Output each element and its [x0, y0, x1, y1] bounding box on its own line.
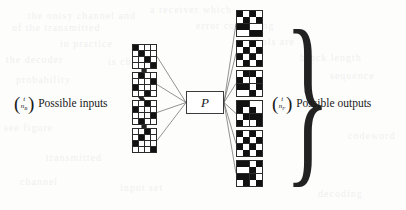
- grid-cell: [237, 131, 243, 137]
- grid-cell: [243, 77, 249, 83]
- input-grid: [132, 128, 157, 153]
- grid-cell: [256, 101, 262, 107]
- grid-cell: [250, 120, 256, 126]
- grid-cell: [133, 119, 138, 124]
- output-connector-line: [224, 54, 236, 103]
- grid-cell: [145, 101, 150, 106]
- grid-cell: [250, 161, 256, 167]
- output-binomial-coefficient: ( t nF ): [272, 96, 292, 111]
- grid-cell: [145, 107, 150, 112]
- grid-cell: [237, 90, 243, 96]
- grid-cell: [145, 135, 150, 140]
- grid-cell: [133, 147, 138, 152]
- output-grid: [236, 40, 263, 67]
- binomial-close-paren: ): [28, 96, 34, 111]
- grid-cell: [237, 60, 243, 66]
- grid-cell: [250, 174, 256, 180]
- grid-cell: [237, 30, 243, 36]
- grid-cell: [139, 113, 144, 118]
- grid-cell: [256, 144, 262, 150]
- grid-cell: [256, 90, 262, 96]
- grid-cell: [250, 90, 256, 96]
- grid-cell: [145, 119, 150, 124]
- input-label-text: Possible inputs: [38, 98, 107, 110]
- grid-cell: [243, 167, 249, 173]
- grid-cell: [151, 73, 156, 78]
- grid-cell: [243, 114, 249, 120]
- grid-cell: [243, 144, 249, 150]
- grid-cell: [133, 113, 138, 118]
- grid-cell: [256, 47, 262, 53]
- grid-cell: [250, 101, 256, 107]
- grid-cell: [250, 107, 256, 113]
- channel-box: P: [186, 91, 224, 114]
- grid-cell: [256, 41, 262, 47]
- output-binomial-bottom: nF: [279, 103, 286, 111]
- output-label: ( t nF ) Possible outputs: [272, 96, 371, 111]
- grid-cell: [139, 119, 144, 124]
- grid-cell: [250, 11, 256, 17]
- grid-cell: [256, 114, 262, 120]
- grid-cell: [237, 77, 243, 83]
- input-connector-line: [157, 103, 186, 113]
- grid-cell: [243, 137, 249, 143]
- grid-cell: [256, 84, 262, 90]
- grid-cell: [243, 161, 249, 167]
- grid-cell: [237, 71, 243, 77]
- grid-cell: [243, 17, 249, 23]
- grid-cell: [133, 85, 138, 90]
- grid-cell: [243, 101, 249, 107]
- grid-cell: [133, 91, 138, 96]
- grid-cell: [139, 73, 144, 78]
- output-label-text: Possible outputs: [296, 98, 371, 110]
- grid-cell: [256, 30, 262, 36]
- grid-cell: [237, 24, 243, 30]
- grid-cell: [237, 167, 243, 173]
- grid-cell: [133, 73, 138, 78]
- input-connector-line: [157, 57, 186, 103]
- grid-cell: [256, 137, 262, 143]
- input-grid: [132, 44, 157, 69]
- grid-cell: [139, 135, 144, 140]
- grid-cell: [145, 45, 150, 50]
- grid-cell: [237, 120, 243, 126]
- grid-cell: [237, 144, 243, 150]
- grid-cell: [237, 107, 243, 113]
- grid-cell: [139, 91, 144, 96]
- grid-cell: [139, 51, 144, 56]
- grid-cell: [256, 174, 262, 180]
- grid-cell: [256, 77, 262, 83]
- grid-cell: [243, 131, 249, 137]
- grid-cell: [145, 63, 150, 68]
- grid-cell: [256, 120, 262, 126]
- grid-cell: [243, 47, 249, 53]
- grid-cell: [250, 54, 256, 60]
- grid-cell: [250, 71, 256, 77]
- grid-cell: [133, 63, 138, 68]
- grid-cell: [151, 51, 156, 56]
- grid-cell: [250, 167, 256, 173]
- grid-cell: [250, 180, 256, 186]
- grid-cell: [243, 30, 249, 36]
- grid-cell: [151, 119, 156, 124]
- output-connector-line: [224, 24, 236, 103]
- grid-cell: [151, 91, 156, 96]
- grid-cell: [250, 84, 256, 90]
- grid-cell: [145, 51, 150, 56]
- input-connector-line: [157, 85, 186, 103]
- grid-cell: [250, 131, 256, 137]
- grid-cell: [243, 24, 249, 30]
- grid-cell: [250, 144, 256, 150]
- grid-cell: [237, 150, 243, 156]
- output-grid: [236, 10, 263, 37]
- grid-cell: [237, 11, 243, 17]
- grid-cell: [145, 57, 150, 62]
- grid-cell: [133, 129, 138, 134]
- grid-cell: [145, 91, 150, 96]
- grid-cell: [243, 180, 249, 186]
- grid-cell: [145, 129, 150, 134]
- grid-cell: [256, 54, 262, 60]
- grid-cell: [256, 11, 262, 17]
- input-binomial-bottom: nB: [21, 103, 28, 111]
- grid-cell: [237, 174, 243, 180]
